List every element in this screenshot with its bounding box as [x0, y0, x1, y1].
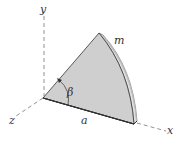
z-axis-label: z [8, 114, 15, 127]
mass-label: m [114, 34, 124, 47]
z-axis [16, 98, 43, 116]
sector-plate-diagram: y z x m β a [0, 0, 185, 143]
angle-label: β [66, 86, 73, 99]
x-axis-label: x [167, 124, 174, 137]
radius-label: a [81, 114, 88, 127]
x-axis [137, 123, 166, 131]
y-axis-label: y [39, 3, 47, 16]
